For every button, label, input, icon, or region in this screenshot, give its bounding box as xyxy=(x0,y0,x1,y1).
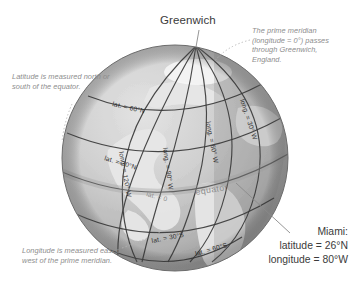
annotation-latitude: Latitude is measured north or south of t… xyxy=(12,72,116,91)
miami-callout-block: Miami: latitude = 26°N longitude = 80°W xyxy=(244,225,348,267)
globe-diagram-page: lat. = 60°N lat. = 30°N lat. = 0 lat. = … xyxy=(0,0,350,288)
annotation-prime-meridian: The prime meridian (longitude = 0°) pass… xyxy=(252,26,348,64)
leader-greenwich xyxy=(196,30,199,47)
annotation-longitude: Longitude is measured east or west of th… xyxy=(22,246,134,265)
label-greenwich: Greenwich xyxy=(160,14,216,26)
miami-longitude: longitude = 80°W xyxy=(244,253,348,267)
miami-name: Miami: xyxy=(244,225,348,239)
miami-latitude: latitude = 26°N xyxy=(244,239,348,253)
